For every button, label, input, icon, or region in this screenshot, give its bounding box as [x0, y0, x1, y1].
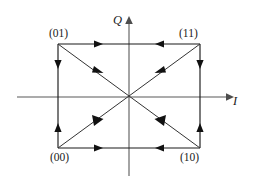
arrow-diag-down-right — [92, 66, 104, 73]
diagram-canvas — [0, 0, 259, 190]
arrow-bottom-leftward — [155, 144, 164, 151]
constellation-label-01: (01) — [49, 28, 68, 40]
constellation-label-11: (11) — [179, 28, 198, 40]
quadrature-axis-label: Q — [113, 14, 122, 27]
arrow-bottom-rightward — [94, 144, 103, 151]
arrow-top-leftward — [155, 40, 164, 47]
constellation-label-10: (10) — [180, 152, 199, 164]
in-phase-axis-label: I — [233, 95, 237, 108]
constellation-label-00: (00) — [50, 152, 69, 164]
arrow-top-rightward — [94, 40, 103, 47]
arrow-left-downward — [54, 60, 61, 69]
arrow-right-upward — [196, 123, 203, 132]
arrow-right-downward — [196, 60, 203, 69]
arrow-diag-up-right — [92, 115, 104, 126]
arrow-left-upward — [54, 123, 61, 132]
vertical-axis-arrow-icon — [125, 16, 133, 24]
constellation-diagram: (01) (11) (00) (10) Q I — [0, 0, 259, 190]
arrow-diag-up-left — [155, 115, 167, 126]
arrow-diag-down-left — [155, 66, 167, 73]
